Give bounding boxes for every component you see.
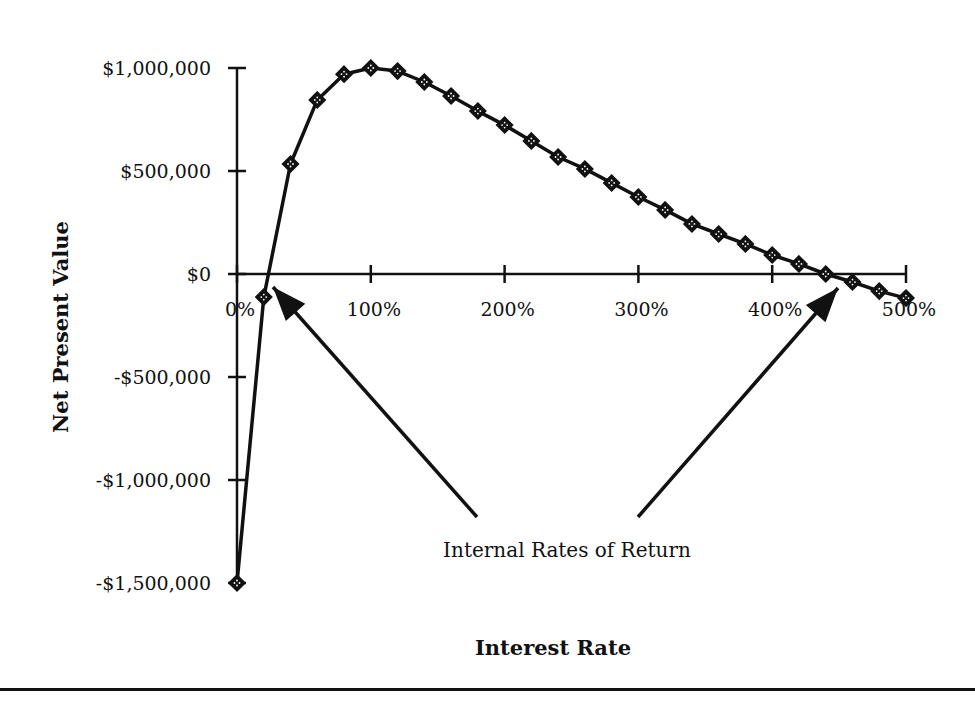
marker-dot [608, 182, 610, 184]
marker-dot [798, 261, 800, 263]
diamond-marker [818, 266, 834, 282]
diamond-marker [604, 175, 620, 191]
marker-dot [640, 196, 642, 198]
marker-dot [586, 168, 588, 170]
marker-dot [370, 65, 372, 67]
marker-dot [664, 207, 666, 209]
diamond-marker [737, 236, 753, 252]
marker-dot [825, 271, 827, 273]
diamond-marker [657, 202, 673, 218]
marker-dot [747, 243, 749, 245]
diamond-marker [871, 283, 887, 299]
marker-dot [557, 159, 559, 161]
marker-dot [265, 296, 267, 298]
marker-dot [718, 231, 720, 233]
diamond-marker [390, 63, 406, 79]
irr-annotation: Internal Rates of Return [273, 287, 838, 562]
y-tick-label: -$1,500,000 [96, 572, 211, 594]
irr-arrow-right-shaft [638, 288, 838, 517]
marker-dot [903, 297, 905, 299]
marker-dot [234, 582, 236, 584]
marker-dot [477, 108, 479, 110]
marker-dot [397, 68, 399, 70]
y-axis: $1,000,000$500,000$0-$500,000-$1,000,000… [96, 57, 246, 594]
y-tick-label: -$500,000 [114, 366, 211, 388]
npv-chart: $1,000,000$500,000$0-$500,000-$1,000,000… [0, 0, 975, 711]
x-tick-label: 400% [748, 298, 802, 320]
marker-dot [533, 140, 535, 142]
marker-dot [450, 98, 452, 100]
marker-dot [560, 156, 562, 158]
marker-dot [263, 299, 265, 301]
diamond-marker [684, 216, 700, 232]
marker-dot [905, 300, 907, 302]
x-tick-label: 300% [614, 298, 668, 320]
marker-dot [557, 154, 559, 156]
diamond-marker [630, 189, 646, 205]
marker-dot [611, 185, 613, 187]
marker-dot [477, 113, 479, 115]
marker-dot [715, 233, 717, 235]
diamond-marker [443, 88, 459, 104]
marker-dot [769, 254, 771, 256]
x-tick-label: 100% [347, 298, 401, 320]
diamond-marker [764, 247, 780, 263]
marker-dot [367, 67, 369, 69]
marker-dot [530, 138, 532, 140]
diamond-marker [470, 103, 486, 119]
marker-dot [399, 70, 401, 72]
bottom-divider [0, 688, 975, 691]
x-axis-title: Interest Rate [475, 635, 631, 660]
marker-dot [316, 97, 318, 99]
irr-annotation-label: Internal Rates of Return [443, 538, 691, 562]
npv-series [229, 60, 914, 591]
y-tick-label: $500,000 [120, 160, 211, 182]
marker-dot [667, 209, 669, 211]
marker-dot [370, 70, 372, 72]
diamond-marker [363, 60, 379, 76]
marker-dot [878, 288, 880, 290]
marker-dot [852, 284, 854, 286]
marker-dot [745, 246, 747, 248]
y-axis-title: Net Present Value [48, 221, 73, 433]
marker-dot [878, 293, 880, 295]
marker-dot [638, 194, 640, 196]
marker-dot [421, 81, 423, 83]
marker-dot [316, 102, 318, 104]
y-tick-label: $0 [187, 263, 211, 285]
marker-dot [479, 110, 481, 112]
marker-dot [287, 163, 289, 165]
marker-dot [372, 67, 374, 69]
diamond-marker [497, 117, 513, 133]
marker-dot [718, 236, 720, 238]
marker-dot [854, 281, 856, 283]
x-tick-label: 0% [225, 298, 255, 320]
y-tick-label: -$1,000,000 [96, 469, 211, 491]
diamond-marker [550, 149, 566, 165]
marker-dot [798, 266, 800, 268]
diamond-marker [229, 575, 245, 591]
marker-dot [613, 182, 615, 184]
marker-dot [423, 79, 425, 81]
marker-dot [528, 140, 530, 142]
marker-dot [236, 585, 238, 587]
marker-dot [662, 209, 664, 211]
marker-dot [314, 99, 316, 101]
diamond-marker [283, 156, 299, 172]
marker-dot [530, 143, 532, 145]
diamond-marker [791, 256, 807, 272]
marker-dot [694, 223, 696, 225]
marker-dot [343, 76, 345, 78]
marker-dot [236, 580, 238, 582]
marker-dot [423, 84, 425, 86]
marker-dot [263, 294, 265, 296]
marker-dot [584, 166, 586, 168]
marker-dot [801, 263, 803, 265]
marker-dot [346, 73, 348, 75]
diamond-marker [711, 226, 727, 242]
marker-dot [292, 163, 294, 165]
marker-dot [506, 124, 508, 126]
y-tick-label: $1,000,000 [102, 57, 211, 79]
marker-dot [260, 296, 262, 298]
marker-dot [876, 290, 878, 292]
